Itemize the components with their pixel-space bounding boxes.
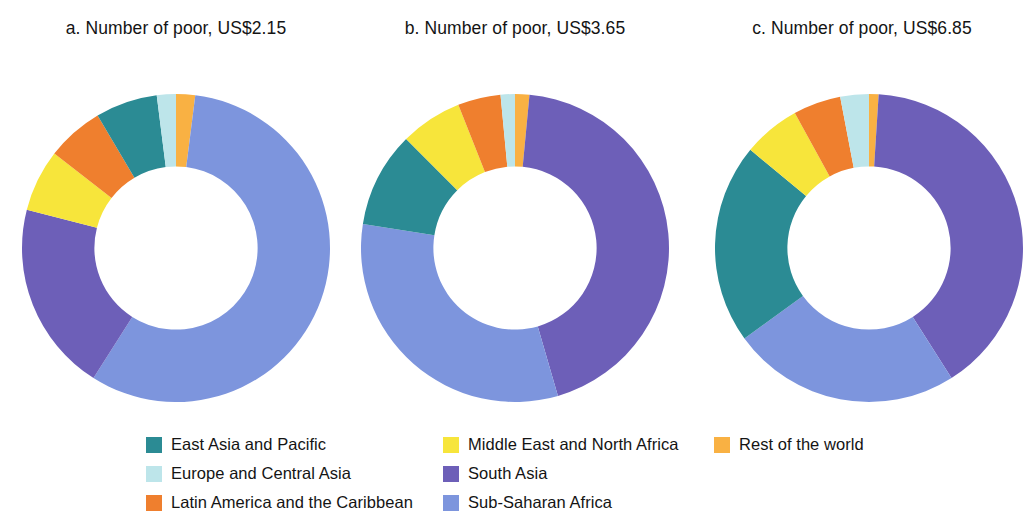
panel-title-c: c. Number of poor, US$6.85 [700, 18, 1024, 39]
legend-column-1: East Asia and PacificEurope and Central … [146, 432, 413, 518]
legend-item[interactable]: Europe and Central Asia [146, 461, 413, 486]
donut-chart-a [20, 92, 332, 404]
legend-label: Latin America and the Caribbean [171, 494, 413, 511]
legend-item[interactable]: Rest of the world [714, 432, 864, 457]
legend-item[interactable]: Sub-Saharan Africa [443, 490, 679, 515]
legend-item[interactable]: East Asia and Pacific [146, 432, 413, 457]
chart-legend: East Asia and PacificEurope and Central … [0, 432, 1024, 518]
donut-svg-c [713, 92, 1024, 404]
legend-label: Sub-Saharan Africa [468, 494, 612, 511]
donut-chart-c [713, 92, 1024, 404]
legend-column-3: Rest of the world [714, 432, 864, 461]
donut-slice[interactable] [361, 224, 558, 402]
legend-label: Rest of the world [739, 436, 864, 453]
legend-label: South Asia [468, 465, 547, 482]
legend-swatch-icon [146, 437, 162, 453]
legend-item[interactable]: Middle East and North Africa [443, 432, 679, 457]
panel-title-b: b. Number of poor, US$3.65 [345, 18, 685, 39]
legend-label: Europe and Central Asia [171, 465, 351, 482]
legend-item[interactable]: South Asia [443, 461, 679, 486]
legend-swatch-icon [146, 495, 162, 511]
legend-item[interactable]: Latin America and the Caribbean [146, 490, 413, 515]
panel-title-a: a. Number of poor, US$2.15 [0, 18, 352, 39]
legend-column-2: Middle East and North AfricaSouth AsiaSu… [443, 432, 679, 518]
figure-panel-group: a. Number of poor, US$2.15 b. Number of … [0, 0, 1024, 518]
legend-swatch-icon [443, 466, 459, 482]
legend-swatch-icon [714, 437, 730, 453]
donut-svg-a [20, 92, 332, 404]
legend-label: Middle East and North Africa [468, 436, 679, 453]
donut-chart-b [359, 92, 671, 404]
donut-svg-b [359, 92, 671, 404]
legend-swatch-icon [443, 437, 459, 453]
legend-label: East Asia and Pacific [171, 436, 326, 453]
legend-swatch-icon [443, 495, 459, 511]
legend-swatch-icon [146, 466, 162, 482]
